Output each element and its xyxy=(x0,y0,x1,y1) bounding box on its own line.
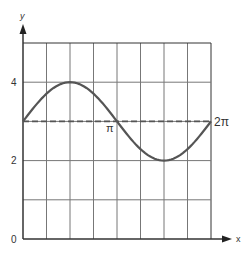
x-axis-label: x xyxy=(236,234,241,244)
grid xyxy=(23,43,211,239)
y-tick-4: 4 xyxy=(11,77,17,88)
pi-label: π xyxy=(106,122,114,134)
two-pi-label: 2π xyxy=(214,115,229,129)
x-axis-arrow-icon xyxy=(222,236,232,243)
y-tick-2: 2 xyxy=(11,155,17,166)
y-axis-label: y xyxy=(19,11,25,21)
y-axis-arrow-icon xyxy=(20,24,27,34)
y-tick-0: 0 xyxy=(11,234,17,245)
sine-chart: y x 4 2 0 π 2π xyxy=(0,0,244,256)
